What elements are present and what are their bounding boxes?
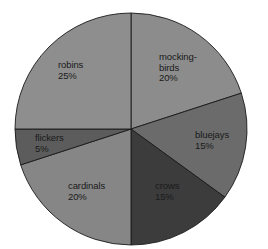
label-flickers: flickers 5%	[35, 133, 64, 154]
label-robins: robins 25%	[58, 60, 83, 81]
label-bluejays: bluejays 15%	[195, 130, 229, 151]
label-cardinals: cardinals 20%	[68, 181, 105, 202]
label-mockingbirds: mocking- birds 20%	[159, 52, 197, 84]
pie-chart	[0, 0, 268, 249]
label-crows: crows 15%	[155, 181, 179, 202]
